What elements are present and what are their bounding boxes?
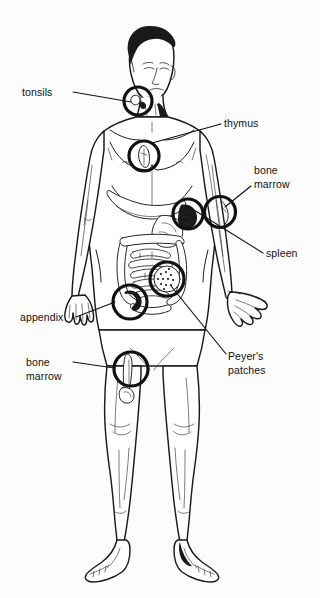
label-line: marrow [254, 178, 290, 190]
label-line: spleen [266, 247, 298, 259]
label-line: Peyer's [228, 350, 263, 362]
label-spleen: spleen [266, 247, 298, 259]
label-appendix: appendix [20, 311, 64, 323]
tonsil-left [131, 95, 140, 105]
label-line: appendix [20, 311, 64, 323]
label-line: thymus [224, 117, 258, 129]
label-line: marrow [26, 370, 62, 382]
label-line: patches [228, 364, 265, 376]
patella [119, 387, 134, 403]
label-thymus: thymus [224, 117, 258, 129]
label-line: bone [254, 164, 278, 176]
label-line: tonsils [22, 86, 52, 98]
hand-left [65, 295, 94, 325]
label-line: bone [26, 356, 50, 368]
torso-outline [88, 117, 216, 330]
immune-system-diagram: tonsilsthymusbonemarrowspleenPeyer'spatc… [0, 0, 320, 598]
label-tonsils: tonsils [22, 86, 52, 98]
